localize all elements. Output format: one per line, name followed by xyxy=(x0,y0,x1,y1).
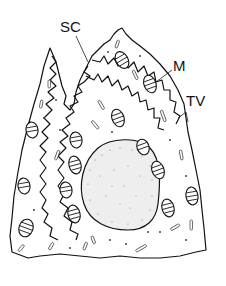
secretory-canaliculus-upper xyxy=(92,56,180,124)
label-tv: TV xyxy=(186,92,205,109)
label-sc: SC xyxy=(60,18,81,35)
cell-diagram: SC M TV xyxy=(0,0,226,286)
sc-leader-line xyxy=(76,36,88,62)
label-m: M xyxy=(173,57,186,74)
